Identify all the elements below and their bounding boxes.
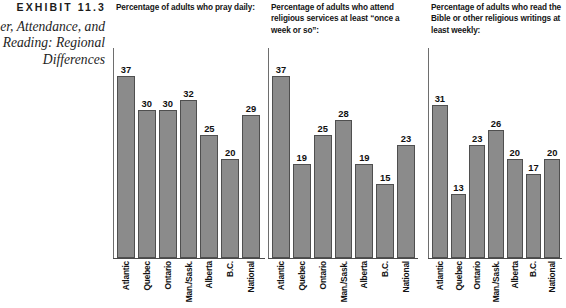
exhibit-caption-block: EXHIBIT 11.3 er, Attendance, andReading:… — [0, 0, 108, 308]
chart-title-2: Percentage of adults who read theBible o… — [431, 2, 566, 36]
category-label: Man./Sask. — [491, 261, 501, 302]
bar-slot: 32 — [180, 49, 198, 258]
category-label: National — [246, 261, 256, 292]
bar-value-label: 17 — [526, 163, 542, 173]
chart-title-line: least weekly: — [431, 25, 566, 36]
category-label: Ontario — [318, 261, 328, 289]
category-label: Quebec — [454, 261, 464, 291]
bar-value-label: 20 — [507, 148, 523, 158]
bar-slot: 15 — [376, 49, 394, 258]
bar-value-label: 29 — [242, 104, 260, 114]
bar-value-label: 31 — [432, 94, 448, 104]
bar-value-label: 30 — [138, 99, 156, 109]
category-slot: B.C. — [376, 259, 394, 308]
category-slot: Quebec — [138, 259, 156, 308]
exhibit-label: EXHIBIT 11.3 — [17, 1, 106, 13]
bar — [117, 76, 135, 258]
category-slot: Alberta — [507, 259, 523, 308]
category-slot: Alberta — [355, 259, 373, 308]
category-slot: Atlantic — [432, 259, 448, 308]
category-slot: National — [397, 259, 415, 308]
category-label: Quebec — [297, 261, 307, 291]
category-label: Alberta — [204, 261, 214, 288]
bar-slot: 29 — [242, 49, 260, 258]
category-label: Atlantic — [121, 261, 131, 290]
bar-value-label: 25 — [314, 124, 332, 134]
bar — [242, 115, 260, 258]
bar-slot: 19 — [293, 49, 311, 258]
category-label: Ontario — [472, 261, 482, 289]
bar-value-label: 23 — [397, 134, 415, 144]
category-slot: B.C. — [221, 259, 239, 308]
bar-value-label: 28 — [335, 109, 353, 119]
y-axis-line-2 — [428, 48, 429, 259]
bar — [488, 130, 504, 258]
bar — [397, 145, 415, 258]
bar — [180, 100, 198, 258]
category-slot: National — [544, 259, 560, 308]
bar-slot: 20 — [507, 49, 523, 258]
category-slot: Man./Sask. — [488, 259, 504, 308]
bar — [507, 159, 523, 258]
bar-value-label: 30 — [159, 99, 177, 109]
category-slot: Atlantic — [117, 259, 135, 308]
bar — [272, 76, 290, 258]
category-slot: B.C. — [526, 259, 542, 308]
bar — [221, 159, 239, 258]
bar — [355, 164, 373, 258]
bars-container-0: 37303032252029 — [117, 49, 260, 258]
category-label: National — [547, 261, 557, 292]
bar — [159, 110, 177, 258]
chart-title-line: Percentage of adults who attend — [271, 2, 419, 13]
chart-panel-attendance: Percentage of adults who attendreligious… — [268, 0, 423, 308]
bar-slot: 20 — [544, 49, 560, 258]
bars-container-2: 31132326201720 — [432, 49, 560, 258]
chart-title-0: Percentage of adults who pray daily: — [116, 2, 264, 13]
category-label: National — [401, 261, 411, 292]
category-slot: Quebec — [451, 259, 467, 308]
bar-slot: 23 — [397, 49, 415, 258]
bar — [544, 159, 560, 258]
bar-value-label: 26 — [488, 119, 504, 129]
bar-value-label: 37 — [117, 65, 135, 75]
chart-title-line: Bible or other religious writings at — [431, 13, 566, 24]
category-label: Atlantic — [276, 261, 286, 290]
category-labels-2: AtlanticQuebecOntarioMan./Sask.AlbertaB.… — [432, 259, 560, 308]
category-label: Quebec — [142, 261, 152, 291]
bar-slot: 25 — [200, 49, 218, 258]
category-slot: Quebec — [293, 259, 311, 308]
bar-value-label: 20 — [221, 148, 239, 158]
bar-value-label: 32 — [180, 89, 198, 99]
bar-slot: 37 — [117, 49, 135, 258]
category-slot: Alberta — [200, 259, 218, 308]
bar-value-label: 20 — [544, 148, 560, 158]
category-slot: Atlantic — [272, 259, 290, 308]
category-label: Atlantic — [435, 261, 445, 290]
category-label: B.C. — [380, 261, 390, 277]
category-slot: Ontario — [159, 259, 177, 308]
chart-title-line: religious services at least “once a — [271, 13, 419, 24]
bar-value-label: 25 — [200, 124, 218, 134]
category-slot: Man./Sask. — [180, 259, 198, 308]
bar — [138, 110, 156, 258]
y-axis-line-1 — [268, 48, 269, 259]
bar — [314, 135, 332, 258]
bar — [451, 194, 467, 258]
category-slot: Ontario — [469, 259, 485, 308]
category-label: Alberta — [510, 261, 520, 288]
category-label: Man./Sask. — [184, 261, 194, 302]
bar-slot: 19 — [355, 49, 373, 258]
bar — [335, 120, 353, 258]
bars-container-1: 37192528191523 — [272, 49, 415, 258]
bar — [432, 105, 448, 258]
bar-slot: 28 — [335, 49, 353, 258]
bar-value-label: 19 — [293, 153, 311, 163]
bar-slot: 26 — [488, 49, 504, 258]
category-label: Man./Sask. — [339, 261, 349, 302]
category-label: B.C. — [225, 261, 235, 277]
bar — [469, 145, 485, 258]
bar-slot: 13 — [451, 49, 467, 258]
y-axis-line-0 — [113, 48, 114, 259]
bar — [293, 164, 311, 258]
exhibit-caption-line: Reading: Regional — [0, 35, 105, 51]
